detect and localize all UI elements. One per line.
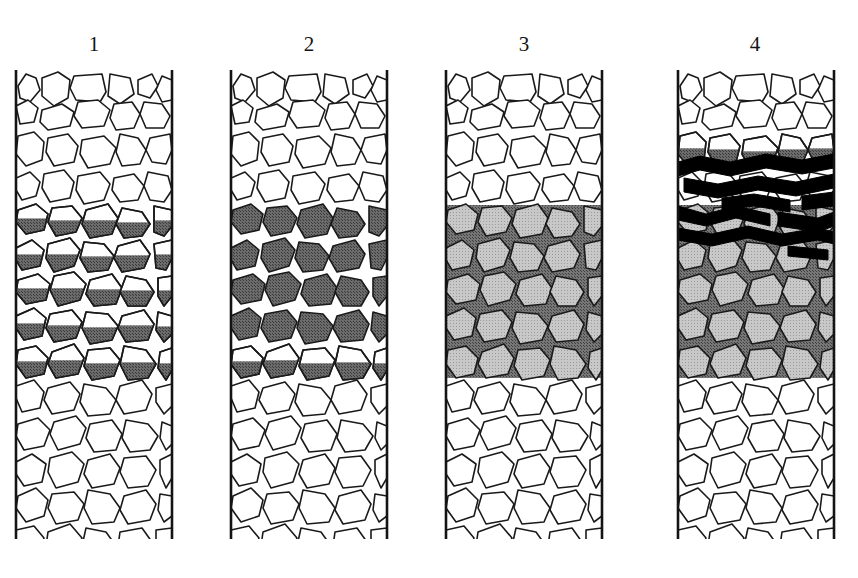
clast: [780, 528, 814, 543]
clast: [736, 100, 772, 128]
clast: [514, 348, 550, 380]
clast: [86, 420, 122, 452]
clast: [120, 456, 156, 488]
clast: [46, 134, 78, 166]
clast: [574, 172, 602, 202]
clast: [480, 416, 516, 450]
clast: [800, 74, 820, 98]
clast: [291, 172, 325, 204]
clast: [263, 206, 297, 236]
clast: [110, 102, 140, 130]
clast: [375, 422, 387, 450]
clast: [257, 170, 289, 202]
clast: [16, 380, 44, 412]
clast: [231, 454, 261, 486]
clast: [80, 384, 116, 416]
clast: [297, 204, 333, 238]
clast: [375, 454, 387, 488]
clast: [550, 456, 586, 488]
clast: [782, 456, 818, 488]
clast: [476, 134, 508, 166]
clast: [40, 104, 74, 130]
clast: [50, 416, 86, 450]
column-2: [227, 66, 391, 543]
clast: [822, 454, 834, 488]
clast: [331, 208, 365, 238]
clast: [474, 382, 510, 414]
clast: [678, 418, 712, 450]
clast: [446, 526, 474, 543]
clast: [333, 310, 369, 342]
clast: [295, 136, 331, 168]
clast: [576, 134, 602, 164]
clast: [744, 528, 778, 543]
clast: [708, 310, 744, 342]
clast: [331, 380, 367, 414]
clast: [516, 420, 552, 452]
clast: [44, 382, 80, 414]
clast: [732, 74, 768, 102]
clast: [301, 274, 337, 306]
clast: [297, 528, 331, 543]
clast: [361, 134, 387, 164]
clast: [299, 454, 335, 488]
clast: [778, 380, 814, 414]
clast: [160, 422, 172, 450]
clast: [512, 204, 548, 238]
clast: [261, 134, 293, 166]
clast: [231, 132, 259, 166]
clast: [263, 452, 299, 488]
clast: [16, 526, 44, 543]
clast: [265, 416, 301, 450]
clast: [295, 384, 331, 416]
clast: [586, 528, 602, 543]
clast: [371, 384, 387, 414]
clast: [586, 384, 602, 414]
clast: [772, 102, 802, 130]
clast: [84, 454, 120, 488]
clast: [371, 76, 387, 102]
clast: [231, 488, 263, 522]
clast: [706, 382, 742, 414]
clast: [231, 172, 255, 200]
clast: [335, 490, 371, 524]
clast: [323, 74, 349, 104]
clast: [70, 74, 106, 102]
clast: [42, 170, 74, 202]
clast: [263, 492, 299, 524]
clast: [712, 416, 748, 450]
clast: [301, 420, 337, 452]
clast: [16, 454, 46, 486]
clast: [108, 74, 134, 104]
clast: [538, 74, 564, 104]
clast: [546, 380, 582, 414]
clast: [16, 100, 38, 124]
clast: [16, 172, 40, 200]
clast: [48, 492, 84, 524]
clast: [746, 454, 782, 488]
clast-layer: [12, 72, 176, 543]
clast: [257, 72, 285, 106]
clast: [289, 100, 325, 128]
clast: [116, 380, 152, 414]
clast: [369, 240, 387, 270]
clast: [297, 312, 333, 344]
clast: [259, 382, 295, 414]
clast: [478, 492, 514, 524]
clast: [42, 72, 70, 106]
clast: [784, 420, 820, 452]
clast: [231, 308, 261, 340]
clast: [48, 452, 84, 488]
clast: [156, 76, 172, 102]
clast: [285, 74, 321, 102]
clast: [120, 490, 156, 524]
clast: [746, 490, 782, 524]
column-label-4: 4: [735, 34, 775, 55]
clast: [18, 74, 40, 102]
clast: [818, 528, 834, 543]
column-4: [674, 66, 838, 543]
clast: [588, 494, 602, 522]
clast: [680, 74, 702, 102]
clast: [678, 488, 710, 522]
clast: [84, 490, 120, 524]
